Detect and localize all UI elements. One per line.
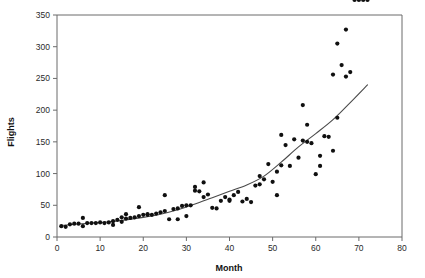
data-point: [111, 223, 115, 227]
data-point: [120, 220, 124, 224]
x-axis-title: Month: [216, 263, 243, 273]
data-point: [210, 206, 214, 210]
data-point: [102, 221, 106, 225]
y-tick-label: 250: [36, 73, 50, 83]
data-point: [305, 140, 309, 144]
x-tick-label: 80: [397, 243, 407, 253]
y-tick-label: 50: [41, 200, 51, 210]
data-point: [150, 213, 154, 217]
data-point: [352, 0, 356, 2]
x-tick-label: 20: [139, 243, 149, 253]
data-point: [335, 41, 339, 45]
data-point: [214, 206, 218, 210]
data-point: [223, 195, 227, 199]
data-point: [344, 74, 348, 78]
data-point: [249, 200, 253, 204]
data-point: [240, 199, 244, 203]
data-point: [85, 221, 89, 225]
data-point: [163, 209, 167, 213]
data-point: [202, 180, 206, 184]
data-point: [163, 193, 167, 197]
data-point: [301, 138, 305, 142]
data-point: [124, 217, 128, 221]
data-point: [107, 220, 111, 224]
data-point: [180, 204, 184, 208]
data-point: [158, 210, 162, 214]
data-point: [202, 195, 206, 199]
data-point: [232, 193, 236, 197]
y-tick-label: 100: [36, 169, 50, 179]
data-point: [94, 221, 98, 225]
data-point: [253, 184, 257, 188]
data-point: [279, 163, 283, 167]
x-tick-label: 0: [55, 243, 60, 253]
data-point: [72, 222, 76, 226]
data-point: [64, 225, 68, 229]
data-point: [133, 215, 137, 219]
scatter-chart: 01020304050607080 050100150200250300350 …: [0, 0, 425, 278]
y-tick-label: 350: [36, 10, 50, 20]
data-point: [361, 0, 365, 2]
data-point: [189, 203, 193, 207]
y-axis-title: Flights: [6, 117, 16, 147]
data-point: [141, 213, 145, 217]
data-point: [296, 156, 300, 160]
data-point: [98, 220, 102, 224]
data-point: [357, 0, 361, 2]
data-point: [258, 182, 262, 186]
data-point: [331, 73, 335, 77]
x-tick-label: 40: [225, 243, 235, 253]
data-point: [335, 116, 339, 120]
data-point: [145, 212, 149, 216]
data-point: [348, 70, 352, 74]
x-tick-label: 70: [354, 243, 364, 253]
data-point: [292, 137, 296, 141]
data-point: [176, 206, 180, 210]
data-point: [245, 197, 249, 201]
data-point: [111, 219, 115, 223]
data-point: [154, 211, 158, 215]
data-point: [318, 164, 322, 168]
data-point: [365, 0, 369, 2]
x-tick-label: 10: [95, 243, 105, 253]
data-point: [81, 224, 85, 228]
data-point: [171, 207, 175, 211]
data-point: [184, 203, 188, 207]
x-tick-label: 60: [311, 243, 321, 253]
x-tick-label: 30: [182, 243, 192, 253]
data-point: [288, 164, 292, 168]
data-point: [227, 199, 231, 203]
data-point: [236, 190, 240, 194]
y-tick-label: 0: [45, 232, 50, 242]
data-point: [331, 149, 335, 153]
data-point: [176, 217, 180, 221]
data-point: [301, 103, 305, 107]
data-point: [193, 185, 197, 189]
data-point: [258, 174, 262, 178]
data-point: [81, 216, 85, 220]
axis-frame: [57, 15, 402, 237]
data-point: [314, 172, 318, 176]
data-point: [309, 141, 313, 145]
plot-area: 01020304050607080 050100150200250300350 …: [0, 0, 425, 278]
data-point: [322, 134, 326, 138]
data-point: [59, 224, 63, 228]
x-tick-label: 50: [268, 243, 278, 253]
y-tick-label: 200: [36, 105, 50, 115]
data-points: [59, 0, 369, 229]
data-point: [76, 222, 80, 226]
data-point: [271, 180, 275, 184]
data-point: [219, 199, 223, 203]
data-point: [124, 212, 128, 216]
data-point: [137, 214, 141, 218]
data-point: [137, 205, 141, 209]
data-point: [89, 221, 93, 225]
x-axis-ticks: 01020304050607080: [55, 237, 407, 253]
y-axis-ticks: 050100150200250300350: [36, 10, 57, 242]
data-point: [197, 189, 201, 193]
data-point: [115, 218, 119, 222]
data-point: [305, 123, 309, 127]
y-tick-label: 300: [36, 42, 50, 52]
data-point: [184, 214, 188, 218]
data-point: [206, 192, 210, 196]
